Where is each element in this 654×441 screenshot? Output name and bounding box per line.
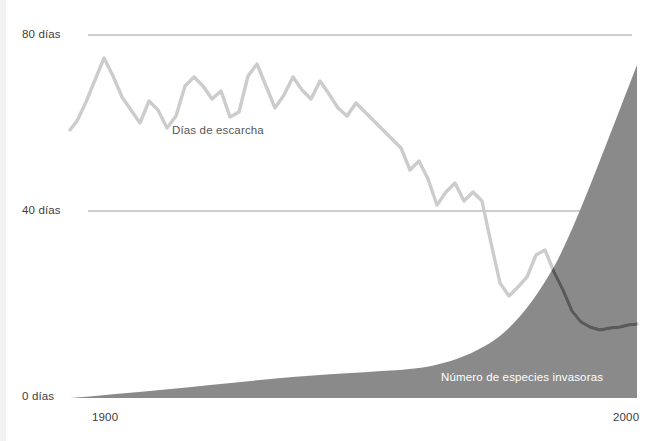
x-axis-tick-label-2000: 2000 xyxy=(613,411,639,423)
chart-figure: 80 días 40 días 0 días 1900 2000 Días de… xyxy=(0,0,654,441)
area-series-invasive-species xyxy=(70,65,637,398)
series-annotation-frost-days: Días de escarcha xyxy=(172,124,264,136)
y-axis-tick-label-40: 40 días xyxy=(22,204,61,216)
series-annotation-invasive-species: Número de especies invasoras xyxy=(441,371,603,383)
y-axis-tick-label-0: 0 días xyxy=(22,390,54,402)
y-axis-tick-label-80: 80 días xyxy=(22,28,61,40)
x-axis-tick-label-1900: 1900 xyxy=(92,411,118,423)
